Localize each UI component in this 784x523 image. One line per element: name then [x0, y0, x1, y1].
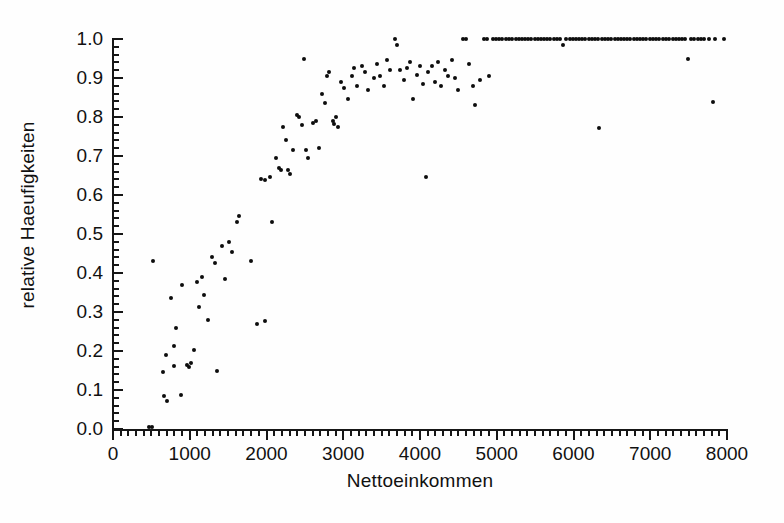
- x-tick-minor: [312, 429, 314, 436]
- data-point: [713, 37, 717, 41]
- y-tick-label: 0.7: [77, 145, 103, 167]
- x-tick-minor: [335, 429, 337, 436]
- data-point: [395, 43, 399, 47]
- data-point: [405, 66, 409, 70]
- data-point: [210, 255, 214, 259]
- data-point: [235, 220, 239, 224]
- data-points-layer: [113, 39, 727, 429]
- x-tick-minor: [289, 429, 291, 436]
- x-tick-minor: [143, 429, 145, 436]
- x-tick-minor: [120, 429, 122, 436]
- x-tick-label: 2000: [245, 443, 287, 465]
- data-point: [151, 259, 155, 263]
- data-point: [439, 84, 443, 88]
- data-point: [558, 37, 562, 41]
- data-point: [306, 156, 310, 160]
- data-point: [424, 175, 428, 179]
- x-tick-minor: [396, 429, 398, 436]
- x-tick-minor: [350, 429, 352, 436]
- y-tick-label: 0.2: [77, 340, 103, 362]
- data-point: [561, 43, 565, 47]
- x-tick-minor: [365, 429, 367, 436]
- data-point: [385, 58, 389, 62]
- data-point: [686, 57, 690, 61]
- x-tick-major: [496, 429, 498, 440]
- x-tick-minor: [135, 429, 137, 436]
- x-tick-minor: [619, 429, 621, 436]
- x-tick-minor: [381, 429, 383, 436]
- y-tick-label: 0.8: [77, 106, 103, 128]
- data-point: [284, 138, 288, 142]
- x-tick-minor: [565, 429, 567, 436]
- x-tick-major: [649, 429, 651, 440]
- plot-area: 0.00.10.20.30.40.50.60.70.80.91.0 010002…: [113, 39, 727, 429]
- x-tick-major: [726, 429, 728, 440]
- data-point: [408, 60, 412, 64]
- data-point: [426, 70, 430, 74]
- data-point: [352, 66, 356, 70]
- x-tick-minor: [450, 429, 452, 436]
- data-point: [707, 37, 711, 41]
- x-tick-major: [189, 429, 191, 440]
- data-point: [288, 172, 292, 176]
- data-point: [411, 97, 415, 101]
- data-point: [418, 64, 422, 68]
- x-tick-minor: [250, 429, 252, 436]
- data-point: [192, 348, 196, 352]
- data-point: [323, 101, 327, 105]
- x-tick-minor: [473, 429, 475, 436]
- x-tick-minor: [158, 429, 160, 436]
- data-point: [597, 126, 601, 130]
- data-point: [263, 178, 267, 182]
- data-point: [346, 97, 350, 101]
- y-tick-label: 0.3: [77, 301, 103, 323]
- x-tick-minor: [434, 429, 436, 436]
- x-tick-major: [342, 429, 344, 440]
- data-point: [450, 58, 454, 62]
- x-tick-minor: [580, 429, 582, 436]
- y-tick-label: 0.4: [77, 262, 103, 284]
- data-point: [281, 125, 285, 129]
- x-tick-minor: [488, 429, 490, 436]
- data-point: [213, 261, 217, 265]
- y-tick-label: 0.9: [77, 67, 103, 89]
- x-tick-minor: [358, 429, 360, 436]
- x-tick-minor: [549, 429, 551, 436]
- data-point: [402, 78, 406, 82]
- data-point: [433, 80, 437, 84]
- x-tick-label: 3000: [322, 443, 364, 465]
- x-tick-minor: [542, 429, 544, 436]
- data-point: [174, 326, 178, 330]
- data-point: [300, 123, 304, 127]
- data-point: [722, 37, 726, 41]
- y-axis-title: relative Haeufigkeiten: [8, 0, 48, 430]
- x-tick-minor: [273, 429, 275, 436]
- x-tick-minor: [680, 429, 682, 436]
- data-point: [317, 146, 321, 150]
- data-point: [165, 399, 169, 403]
- data-point: [443, 68, 447, 72]
- x-tick-minor: [227, 429, 229, 436]
- x-tick-label: 4000: [399, 443, 441, 465]
- x-tick-minor: [703, 429, 705, 436]
- data-point: [350, 74, 354, 78]
- data-point: [478, 78, 482, 82]
- x-tick-minor: [258, 429, 260, 436]
- data-point: [297, 115, 301, 119]
- x-tick-minor: [304, 429, 306, 436]
- x-tick-major: [419, 429, 421, 440]
- x-tick-minor: [665, 429, 667, 436]
- x-tick-minor: [642, 429, 644, 436]
- data-point: [179, 393, 183, 397]
- data-point: [302, 57, 306, 61]
- data-point: [456, 88, 460, 92]
- x-tick-label: 1000: [169, 443, 211, 465]
- data-point: [274, 156, 278, 160]
- data-point: [172, 364, 176, 368]
- data-point: [189, 361, 193, 365]
- data-point: [446, 74, 450, 78]
- x-tick-major: [266, 429, 268, 440]
- data-point: [206, 318, 210, 322]
- x-tick-minor: [534, 429, 536, 436]
- x-tick-label: 7000: [629, 443, 671, 465]
